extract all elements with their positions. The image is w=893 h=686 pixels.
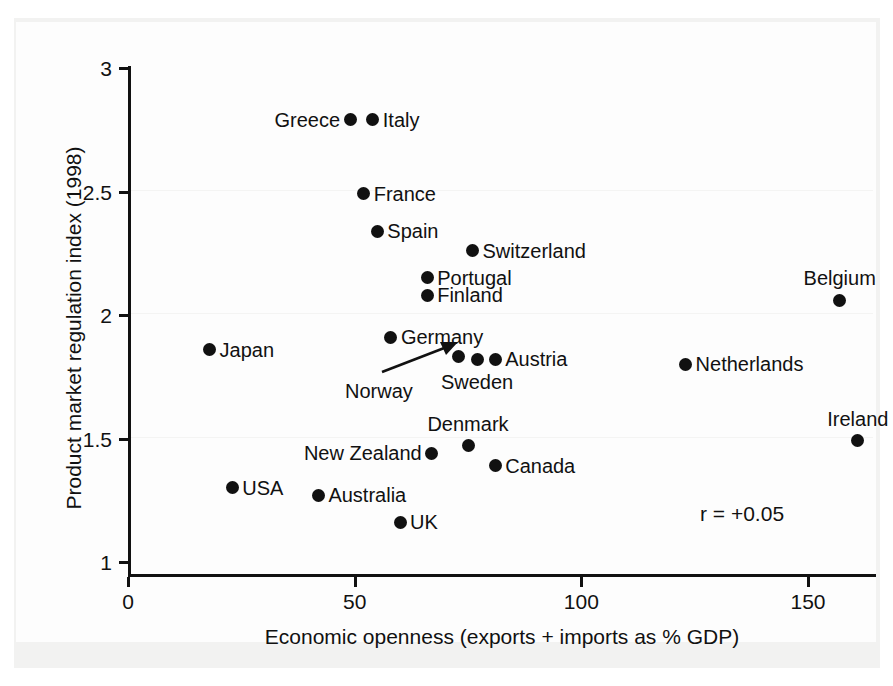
scan-artifact-line (131, 437, 873, 438)
y-tick (119, 561, 128, 564)
y-tick (119, 438, 128, 441)
scatter-point[interactable] (371, 225, 384, 238)
point-label: Belgium (804, 268, 876, 288)
x-tick-label: 100 (564, 590, 599, 614)
point-label: USA (242, 478, 283, 498)
scan-artifact-line (131, 190, 873, 191)
scatter-point[interactable] (421, 289, 434, 302)
scatter-point[interactable] (394, 516, 407, 529)
point-label: France (374, 184, 436, 204)
y-tick (119, 191, 128, 194)
scatter-point[interactable] (344, 113, 357, 126)
scatter-point[interactable] (312, 489, 325, 502)
x-axis-title: Economic openness (exports + imports as … (128, 625, 876, 649)
point-label: Japan (220, 340, 275, 360)
y-tick (119, 67, 128, 70)
x-tick-label: 150 (790, 590, 825, 614)
y-axis-line (128, 66, 131, 577)
point-label: Australia (328, 485, 406, 505)
x-tick (807, 577, 810, 587)
point-label: Denmark (427, 414, 508, 434)
chart-page: 11.522.53 050100150 Product market regul… (0, 0, 893, 686)
x-tick (354, 577, 357, 587)
scatter-point[interactable] (679, 358, 692, 371)
scatter-point[interactable] (471, 353, 484, 366)
point-label: Spain (387, 221, 438, 241)
point-label: Austria (505, 349, 567, 369)
point-label: Ireland (827, 409, 888, 429)
point-label-norway: Norway (345, 381, 413, 401)
scatter-point[interactable] (425, 447, 438, 460)
point-label: Switzerland (483, 241, 586, 261)
point-label: Greece (275, 110, 341, 130)
scatter-point[interactable] (489, 353, 502, 366)
scatter-point[interactable] (833, 294, 846, 307)
correlation-annotation: r = +0.05 (700, 502, 784, 526)
x-tick-label: 0 (122, 590, 134, 614)
x-axis-line (128, 574, 876, 577)
y-tick (119, 314, 128, 317)
point-label: Finland (437, 285, 503, 305)
point-label: Netherlands (696, 354, 804, 374)
x-tick (127, 577, 130, 587)
x-tick-label: 50 (343, 590, 366, 614)
x-tick (580, 577, 583, 587)
scan-artifact-line (131, 313, 873, 314)
point-label: New Zealand (304, 443, 422, 463)
point-label: Canada (505, 456, 575, 476)
norway-leader-arrow (380, 336, 470, 376)
scatter-point[interactable] (489, 459, 502, 472)
scatter-point[interactable] (462, 439, 475, 452)
point-label: Italy (383, 110, 420, 130)
y-axis-title: Product market regulation index (1998) (62, 68, 86, 588)
point-label: UK (410, 512, 438, 532)
